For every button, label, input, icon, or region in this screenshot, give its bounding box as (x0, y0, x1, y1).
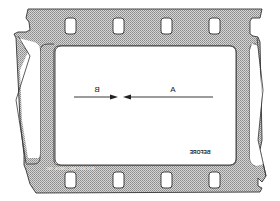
arrow-b-label: B (94, 85, 99, 94)
frame-caption: BEFORE (189, 149, 211, 155)
sprocket-hole (161, 172, 172, 188)
sprocket-hole (65, 18, 76, 34)
edge-print: ROCKET RECORDS, INC (45, 166, 94, 171)
sprocket-hole (65, 172, 76, 188)
film-strip-drawing: B A BEFORE ROCKET RECORDS, INC (0, 0, 280, 201)
sprocket-hole (113, 18, 124, 34)
arrow-a-label: A (170, 85, 176, 94)
sprocket-hole (209, 172, 220, 188)
sprocket-hole (113, 172, 124, 188)
film-strip-diagram: B A BEFORE ROCKET RECORDS, INC (0, 0, 280, 201)
sprocket-hole (161, 18, 172, 34)
sprocket-hole (209, 18, 220, 34)
frame-window (55, 46, 236, 165)
